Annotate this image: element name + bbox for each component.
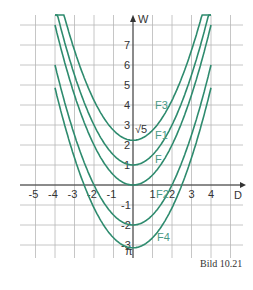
y-axis-arrow-icon: [130, 15, 136, 22]
pi-annotation: π: [125, 245, 133, 257]
x-tick-label: -1: [107, 188, 117, 200]
label-f2: F2: [156, 188, 169, 200]
x-tick-label: 3: [189, 188, 195, 200]
label-f4: F4: [157, 231, 170, 243]
chart: WD-5-4-3-2-11234-3-2-11234567F3F1FF2F4√5…: [0, 0, 253, 290]
x-tick-label: -4: [48, 188, 58, 200]
y-tick-label: 2: [124, 139, 130, 151]
x-tick-label: -5: [29, 188, 39, 200]
y-tick-label: 7: [124, 39, 130, 51]
figure-caption: Bild 10.21: [200, 258, 242, 269]
label-f: F: [155, 153, 162, 165]
y-tick-label: 6: [124, 59, 130, 71]
sqrt5-annotation: √5: [135, 123, 147, 135]
label-f1: F1: [155, 129, 168, 141]
y-tick-label: 4: [124, 99, 130, 111]
x-axis-arrow-icon: [240, 182, 246, 188]
y-tick-label: 5: [124, 79, 130, 91]
label-f3: F3: [155, 99, 168, 111]
y-axis-label: W: [138, 13, 149, 25]
y-tick-label: -1: [121, 199, 131, 211]
x-tick-label: 4: [208, 188, 214, 200]
x-tick-label: 1: [150, 188, 156, 200]
y-tick-label: 3: [124, 119, 130, 131]
x-axis-label: D: [234, 189, 242, 201]
x-tick-label: -3: [68, 188, 78, 200]
